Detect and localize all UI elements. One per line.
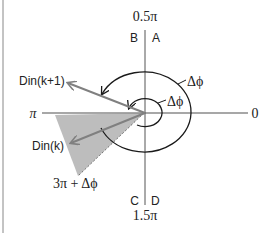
outer-arc-label: Δϕ	[187, 74, 203, 89]
din-k-plus-1-label: Din(k+1)	[19, 74, 65, 88]
region-label: 3π + Δϕ	[53, 176, 98, 191]
inner-arc-label: Δϕ	[167, 94, 183, 109]
axis-label-bottom: 1.5π	[133, 208, 158, 223]
din-k-label: Din(k)	[32, 139, 64, 153]
phase-diagram: 0.5π 1.5π π 0 B A C D Din(k+1) Din(k) Δϕ…	[0, 0, 275, 233]
axis-label-right: 0	[252, 106, 259, 121]
outer-arc-leader	[178, 80, 186, 84]
quadrant-label-d: D	[151, 194, 160, 208]
quadrant-label-c: C	[130, 194, 139, 208]
shaded-region	[55, 113, 144, 176]
quadrant-label-b: B	[130, 31, 138, 45]
quadrant-label-a: A	[152, 31, 160, 45]
axis-label-left: π	[29, 106, 37, 121]
axis-label-top: 0.5π	[133, 9, 158, 24]
inner-arc-leader	[158, 100, 166, 103]
